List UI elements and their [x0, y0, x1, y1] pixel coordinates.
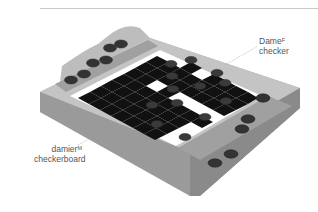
checker-gender: F	[282, 37, 285, 43]
checkerboard-term: damier	[51, 144, 77, 154]
checker-label: DameF checker	[259, 36, 289, 56]
checkerboard-gender: M	[77, 145, 82, 151]
checkerboard-label: damierM checkerboard	[34, 144, 82, 164]
checker-leader-line	[225, 46, 258, 65]
checkers-illustration	[0, 0, 318, 212]
checker-translation: checker	[259, 46, 289, 56]
checkerboard-translation: checkerboard	[34, 154, 86, 164]
checker-term: Dame	[259, 36, 282, 46]
